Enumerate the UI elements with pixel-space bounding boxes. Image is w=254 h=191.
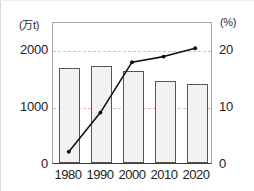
page-edge-top: [0, 0, 254, 1]
line-marker-2020: [193, 46, 197, 50]
line-series: [53, 23, 211, 163]
line-marker-2000: [130, 60, 134, 64]
right-axis-tick-0: 0: [219, 156, 253, 171]
right-axis-unit-label: (%): [220, 16, 236, 28]
left-axis-tick-0: 0: [4, 156, 48, 171]
left-axis-tick-2000: 2000: [4, 42, 48, 57]
right-axis-tick-20: 20: [219, 42, 253, 57]
right-axis-tick-10: 10: [219, 99, 253, 114]
page-edge-left: [0, 0, 1, 191]
x-axis-tick-2020: 2020: [176, 167, 216, 182]
left-axis-tick-1000: 1000: [4, 99, 48, 114]
chart-screenshot: (万t) (%) 2000 1000 0 20 10 0 19801990200…: [0, 0, 254, 191]
plot-area: [52, 22, 212, 164]
left-axis-unit-label: (万t): [19, 16, 39, 32]
line-marker-2010: [162, 55, 166, 59]
line-marker-1990: [98, 111, 102, 115]
line-marker-1980: [67, 150, 71, 154]
